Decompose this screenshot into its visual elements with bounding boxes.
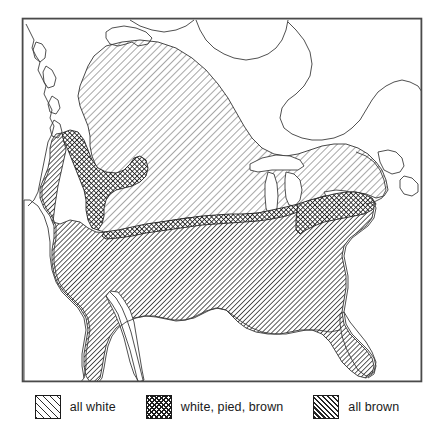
legend-entry-all-white: all white xyxy=(35,395,116,419)
map-legend: all white white, pied, brown all brown xyxy=(0,388,432,426)
figure-distribution-map: all white white, pied, brown all brown xyxy=(0,0,432,426)
legend-label-white-pied-brown: white, pied, brown xyxy=(181,400,284,414)
legend-swatch-all-brown xyxy=(313,395,339,419)
legend-entry-all-brown: all brown xyxy=(313,395,399,419)
legend-entry-white-pied-brown: white, pied, brown xyxy=(146,395,284,419)
legend-label-all-brown: all brown xyxy=(348,400,399,414)
legend-swatch-all-white xyxy=(35,395,61,419)
legend-swatch-white-pied-brown xyxy=(146,395,172,419)
map-graphic xyxy=(0,0,432,426)
legend-label-all-white: all white xyxy=(70,400,116,414)
